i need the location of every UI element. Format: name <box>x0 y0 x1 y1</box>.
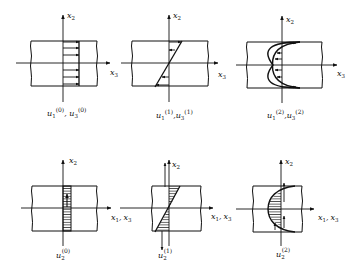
x3-label: x3 <box>218 70 227 80</box>
panel-top-order-1: x2 x3 u1(1),u3(1) <box>121 11 227 121</box>
x3-label: x3 <box>337 69 346 79</box>
panel-label: u2(0) <box>56 247 70 261</box>
panel-bottom-order-1: x2 x1,x3 u2(1) <box>120 160 232 261</box>
panel-bottom-order-0: x2 x1,x3 u2(0) <box>21 156 132 261</box>
panel-top-order-2: x2 x3 u1(2),u3(2) <box>236 15 346 121</box>
x2-label: x2 <box>173 11 181 21</box>
x1-x3-label: x1,x3 <box>111 213 132 223</box>
linear-profile-line <box>155 41 182 87</box>
x2-label: x2 <box>286 15 294 25</box>
panel-label: u2(1) <box>158 247 172 261</box>
panel-top-order-0: x2 x3 u1(0), u3(0) <box>16 11 119 119</box>
x3-label: x3 <box>110 68 119 78</box>
panel-label: u1(0), u3(0) <box>47 106 86 119</box>
x2-label: x2 <box>285 157 293 167</box>
panel-label: u2(2) <box>276 246 290 260</box>
x1-x3-label: x1,x3 <box>318 213 339 223</box>
panel-label: u1(1),u3(1) <box>156 108 193 121</box>
panel-bottom-order-2: x2 x1,x3 u2(2) <box>236 157 339 260</box>
x2-label: x2 <box>172 160 180 170</box>
x1-x3-label: x1,x3 <box>211 212 232 222</box>
panel-label: u1(2),u3(2) <box>267 108 304 121</box>
x2-label: x2 <box>69 156 77 166</box>
uniform-hatched-strip <box>63 186 71 231</box>
plate-outline <box>132 41 209 86</box>
plate-displacement-diagram: x2 x3 u1(0), u3(0) x2 x3 u1(1),u3(1) <box>0 0 363 277</box>
x2-label: x2 <box>67 11 75 21</box>
